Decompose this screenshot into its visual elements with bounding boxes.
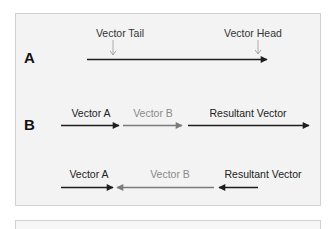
row1-vector-b-label: Vector B (133, 107, 173, 119)
row2-vector-a-label: Vector A (69, 168, 108, 180)
vector-tail-label: Vector Tail (96, 27, 144, 39)
row1-vector-a-label: Vector A (71, 107, 110, 119)
row1-resultant-label: Resultant Vector (209, 107, 287, 119)
section-b-label: B (24, 116, 35, 133)
row2-resultant-label: Resultant Vector (224, 168, 302, 180)
vector-head-label: Vector Head (224, 27, 282, 39)
row2-vector-b-label: Vector B (150, 168, 190, 180)
section-a-label: A (24, 49, 35, 66)
vector-diagram: A Vector Tail Vector Head B Vector A Vec… (0, 0, 333, 229)
